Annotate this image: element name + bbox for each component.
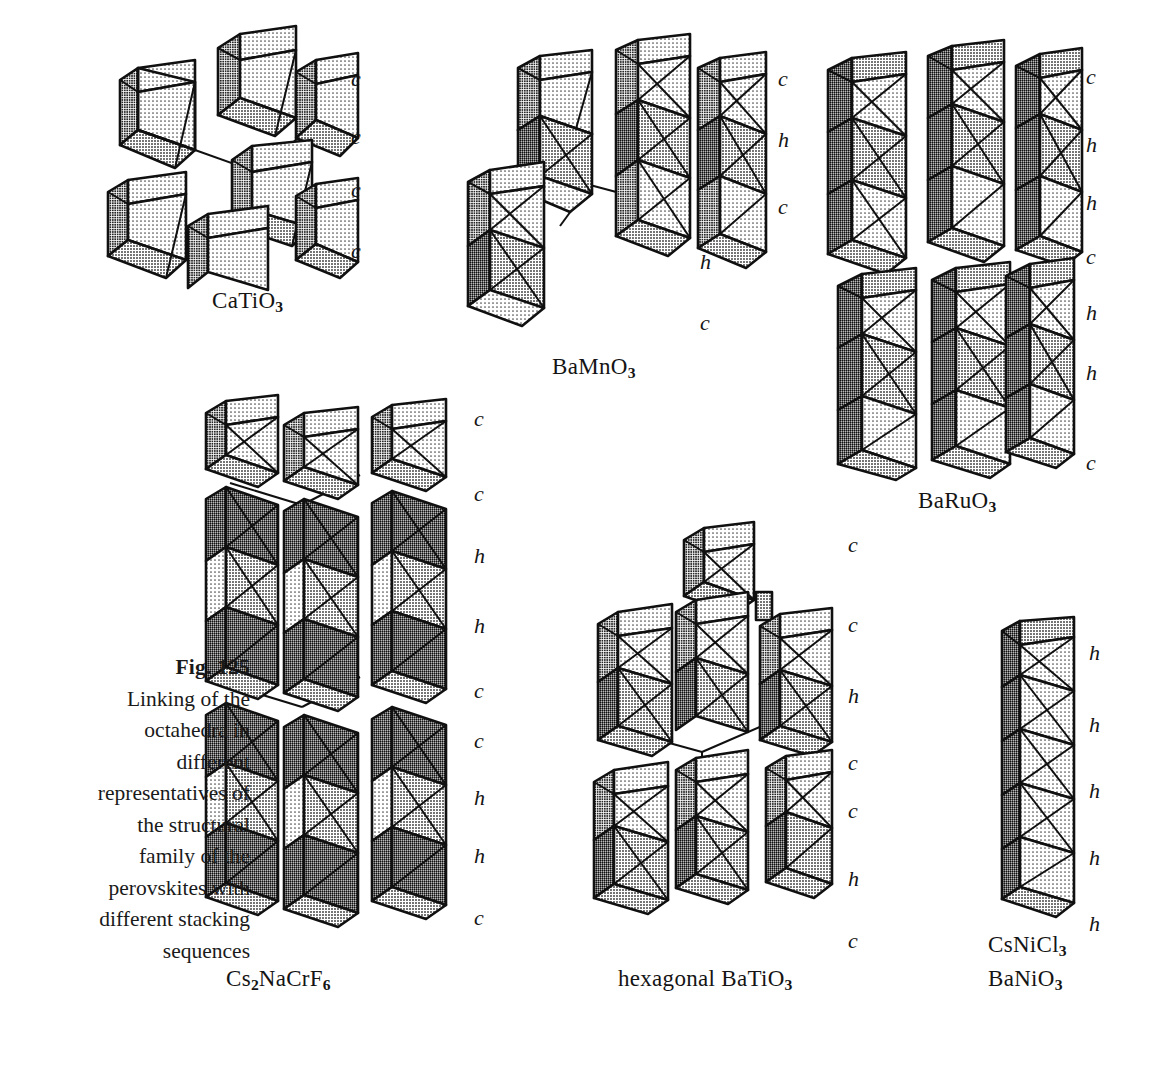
stacking-label-hex-batio3-3: c [848, 752, 858, 774]
stacking-label-bamno3-3: h [700, 251, 711, 273]
figure-caption: Fig. 125 Linking of the octahedra in dif… [0, 652, 250, 967]
octahedron-column [1006, 48, 1082, 468]
octahedron-column [616, 34, 690, 256]
stacking-label-hex-batio3-4: c [848, 800, 858, 822]
stacking-label-bamno3-2: c [778, 196, 788, 218]
stacking-label-cs2nacrf6-7: h [474, 845, 485, 867]
caption-line: perovskites with [0, 873, 250, 905]
octahedron-column [698, 52, 766, 268]
stacking-label-hex-batio3-1: c [848, 614, 858, 636]
formula-baruo3: BaRuO3 [918, 488, 996, 516]
panel-baruo3-drawing [820, 40, 1090, 480]
octahedron-column [928, 40, 1010, 478]
stacking-label-hex-batio3-0: c [848, 534, 858, 556]
stacking-label-baruo3-2: h [1086, 192, 1097, 214]
stacking-label-catio3-1: c [351, 126, 361, 148]
panel-hex-batio3-drawing [580, 520, 850, 940]
caption-line: sequences [0, 936, 250, 968]
octahedron-column [1002, 617, 1074, 917]
stacking-label-csnicl3-1: h [1089, 714, 1100, 736]
octahedron-column [828, 52, 916, 480]
stacking-label-bamno3-1: h [778, 129, 789, 151]
formula-bamno3: BaMnO3 [552, 354, 635, 382]
stacking-label-cs2nacrf6-3: h [474, 615, 485, 637]
octahedron [296, 178, 358, 278]
figure-number: Fig. 125 [0, 652, 250, 684]
stacking-label-baruo3-1: h [1086, 134, 1097, 156]
stacking-label-catio3-0: c [351, 68, 361, 90]
octahedron [218, 26, 296, 136]
stacking-label-csnicl3-2: h [1089, 780, 1100, 802]
caption-line: the structural [0, 810, 250, 842]
formula-cs2nacrf6: Cs2NaCrF6 [226, 966, 331, 994]
stacking-label-hex-batio3-5: h [848, 868, 859, 890]
octahedron [120, 60, 195, 168]
octahedron-column [284, 407, 358, 927]
formula-csnicl3: CsNiCl3 [988, 932, 1067, 960]
stacking-label-cs2nacrf6-4: c [474, 680, 484, 702]
stacking-label-hex-batio3-2: h [848, 685, 859, 707]
stacking-label-cs2nacrf6-0: c [474, 408, 484, 430]
caption-line: octahedra in [0, 715, 250, 747]
stacking-label-catio3-3: c [351, 240, 361, 262]
stacking-label-catio3-2: c [351, 179, 361, 201]
panel-catio3-drawing [100, 20, 360, 290]
stacking-label-cs2nacrf6-2: h [474, 545, 485, 567]
octahedron-column [598, 604, 672, 756]
panel-bamno3-drawing [440, 30, 770, 350]
formula-catio3: CaTiO3 [212, 288, 283, 316]
octahedron [108, 172, 186, 278]
stacking-label-cs2nacrf6-5: c [474, 730, 484, 752]
stacking-label-baruo3-5: h [1086, 362, 1097, 384]
stacking-label-csnicl3-4: h [1089, 913, 1100, 935]
stacking-label-csnicl3-0: h [1089, 642, 1100, 664]
stacking-label-cs2nacrf6-6: h [474, 787, 485, 809]
stacking-label-bamno3-0: c [778, 68, 788, 90]
caption-line: Linking of the [0, 684, 250, 716]
panel-csnicl3-drawing [988, 615, 1098, 925]
formula-hex-batio3: hexagonal BaTiO3 [618, 966, 792, 994]
formula-banio3: BaNiO3 [988, 966, 1062, 994]
stacking-label-baruo3-3: c [1086, 246, 1096, 268]
octahedron [188, 206, 268, 290]
stacking-label-cs2nacrf6-1: c [474, 483, 484, 505]
caption-line: representatives of [0, 778, 250, 810]
octahedron-column [760, 608, 832, 756]
octahedron-column [468, 162, 544, 326]
stacking-label-baruo3-6: c [1086, 452, 1096, 474]
stacking-label-csnicl3-3: h [1089, 847, 1100, 869]
stacking-label-baruo3-4: h [1086, 302, 1097, 324]
octahedron-column [372, 399, 446, 919]
octahedron-column [766, 750, 832, 898]
stacking-label-baruo3-0: c [1086, 66, 1096, 88]
stacking-label-bamno3-4: c [700, 312, 710, 334]
caption-line: different [0, 747, 250, 779]
octahedron-column [594, 762, 668, 914]
stacking-label-hex-batio3-6: c [848, 930, 858, 952]
stacking-label-cs2nacrf6-8: c [474, 907, 484, 929]
caption-line: different stacking [0, 904, 250, 936]
caption-line: family of the [0, 841, 250, 873]
